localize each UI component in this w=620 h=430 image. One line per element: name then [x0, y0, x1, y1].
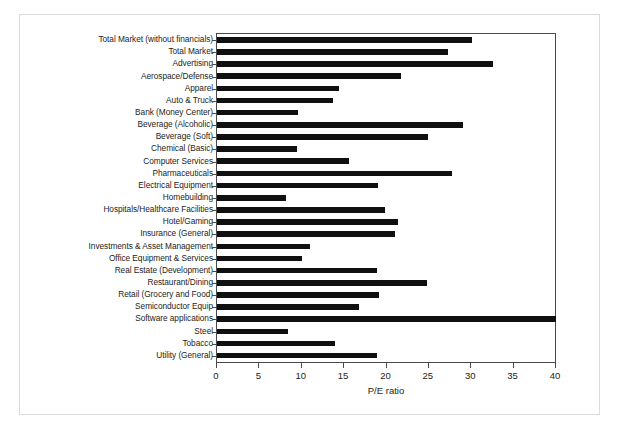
bar — [217, 183, 378, 189]
bar — [217, 231, 395, 237]
page-root: Total Market (without financials)Total M… — [0, 0, 620, 430]
bar-row — [217, 83, 556, 95]
bar-row — [217, 289, 556, 301]
y-axis-label: Insurance (General) — [20, 229, 213, 238]
bar — [217, 98, 333, 104]
x-axis-tick-label: 25 — [423, 370, 434, 381]
y-axis-label: Investments & Asset Management — [20, 242, 213, 251]
bar — [217, 353, 377, 359]
y-axis-label: Steel — [20, 327, 213, 336]
x-axis-tick — [428, 363, 429, 368]
pe-ratio-bar-chart: Total Market (without financials)Total M… — [0, 0, 620, 430]
bar-row — [217, 107, 556, 119]
bar — [217, 329, 288, 335]
bar-row — [217, 265, 556, 277]
y-axis-label: Utility (General) — [20, 351, 213, 360]
bar — [217, 268, 377, 274]
bar — [217, 304, 359, 310]
x-axis-tick-label: 20 — [380, 370, 391, 381]
bar — [217, 49, 448, 55]
bar-row — [217, 204, 556, 216]
bar — [217, 158, 349, 164]
bar-row — [217, 326, 556, 338]
y-axis-label: Apparel — [20, 84, 213, 93]
y-axis-label: Beverage (Soft) — [20, 132, 213, 141]
y-axis-label: Auto & Truck — [20, 96, 213, 105]
y-axis-label: Electrical Equipment — [20, 181, 213, 190]
x-axis-tick — [470, 363, 471, 368]
bar — [217, 341, 335, 347]
bar-row — [217, 143, 556, 155]
bar-row — [217, 34, 556, 46]
bar-row — [217, 228, 556, 240]
bar — [217, 37, 472, 43]
y-axis-label: Computer Services — [20, 157, 213, 166]
x-axis-tick — [386, 363, 387, 368]
bar — [217, 244, 310, 250]
bar-row — [217, 301, 556, 313]
bar — [217, 207, 385, 213]
bar-row — [217, 338, 556, 350]
bar-row — [217, 131, 556, 143]
x-axis-tick-label: 0 — [213, 370, 218, 381]
bar-row — [217, 95, 556, 107]
y-axis-label: Aerospace/Defense — [20, 72, 213, 81]
x-axis-tick — [555, 363, 556, 368]
y-axis-label: Homebuilding — [20, 193, 213, 202]
y-axis-label: Advertising — [20, 59, 213, 68]
bar — [217, 134, 428, 140]
y-axis-label: Beverage (Alcoholic) — [20, 120, 213, 129]
x-axis-tick-label: 5 — [256, 370, 261, 381]
y-axis-label: Hospitals/Healthcare Facilities — [20, 205, 213, 214]
y-axis-label: Restaurant/Dining — [20, 278, 213, 287]
bar — [217, 110, 298, 116]
bar-row — [217, 58, 556, 70]
y-axis-label: Tobacco — [20, 339, 213, 348]
bar — [217, 171, 452, 177]
x-axis-tick — [258, 363, 259, 368]
y-axis-label: Hotel/Gaming — [20, 217, 213, 226]
x-axis-tick-label: 30 — [465, 370, 476, 381]
y-axis-label: Total Market — [20, 47, 213, 56]
bar — [217, 280, 427, 286]
bar — [217, 292, 379, 298]
bar-row — [217, 277, 556, 289]
x-axis-tick — [343, 363, 344, 368]
bar — [217, 219, 398, 225]
bar-row — [217, 155, 556, 167]
y-axis-category-labels: Total Market (without financials)Total M… — [20, 34, 213, 362]
x-axis-tick-label: 10 — [295, 370, 306, 381]
bar — [217, 61, 493, 67]
bar — [217, 316, 556, 322]
bar — [217, 146, 297, 152]
y-axis-label: Real Estate (Development) — [20, 266, 213, 275]
bar-row — [217, 253, 556, 265]
x-axis-tick-label: 40 — [550, 370, 561, 381]
bar-row — [217, 216, 556, 228]
bar-row — [217, 119, 556, 131]
bar-row — [217, 70, 556, 82]
bar-row — [217, 180, 556, 192]
y-axis-label: Semiconductor Equip — [20, 302, 213, 311]
x-axis-tick — [216, 363, 217, 368]
x-axis-tick-label: 15 — [338, 370, 349, 381]
y-axis-label: Chemical (Basic) — [20, 144, 213, 153]
x-axis-tick — [301, 363, 302, 368]
bar — [217, 73, 401, 79]
bar-row — [217, 313, 556, 325]
x-axis-title: P/E ratio — [216, 385, 556, 396]
y-axis-label: Bank (Money Center) — [20, 108, 213, 117]
bars-container — [217, 34, 556, 362]
bar — [217, 256, 302, 262]
x-axis-tick-label: 35 — [507, 370, 518, 381]
bar — [217, 122, 463, 128]
y-axis-label: Pharmaceuticals — [20, 169, 213, 178]
bar — [217, 195, 286, 201]
bar-row — [217, 168, 556, 180]
y-axis-label: Total Market (without financials) — [20, 35, 213, 44]
y-axis-label: Office Equipment & Services — [20, 254, 213, 263]
bar — [217, 86, 339, 92]
y-axis-label: Retail (Grocery and Food) — [20, 290, 213, 299]
x-axis-tick — [513, 363, 514, 368]
bar-row — [217, 192, 556, 204]
